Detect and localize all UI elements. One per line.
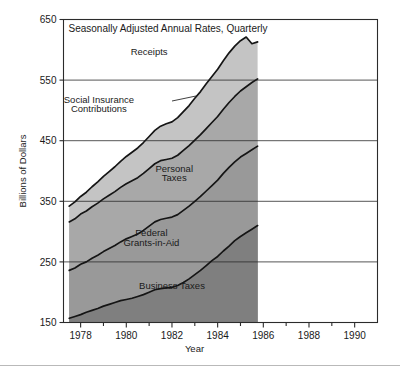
x-tick-label-1978: 1978 [70,330,93,341]
y-axis-title: Billions of Dollars [17,134,28,207]
chart-figure: 1502503504505506501978198019821984198619… [0,0,400,372]
x-axis-title: Year [185,343,204,354]
x-tick-label-1982: 1982 [161,330,184,341]
x-tick-label-1990: 1990 [344,330,367,341]
y-tick-label-350: 350 [40,196,57,207]
chart-title: Seasonally Adjusted Annual Rates, Quarte… [69,23,268,34]
annotation-taxes: Taxes [162,172,187,183]
annotation-business-taxes: Business Taxes [139,280,205,291]
y-tick-label-250: 250 [40,257,57,268]
x-tick-label-1984: 1984 [207,330,230,341]
x-tick-label-1988: 1988 [298,330,321,341]
y-tick-label-650: 650 [40,14,57,25]
y-tick-label-550: 550 [40,75,57,86]
page-bottom-rule [0,365,400,366]
x-tick-label-1980: 1980 [115,330,138,341]
annotation-receipts: Receipts [131,46,168,57]
stacked-area-chart: 1502503504505506501978198019821984198619… [0,0,400,372]
x-tick-label-1986: 1986 [252,330,275,341]
annotation-contributions: Contributions [71,103,127,114]
y-tick-label-450: 450 [40,135,57,146]
y-tick-label-150: 150 [40,317,57,328]
annotation-grants-in-aid: Grants-in-Aid [123,237,179,248]
